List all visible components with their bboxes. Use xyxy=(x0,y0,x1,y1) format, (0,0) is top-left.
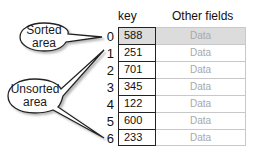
key-cell: 251 xyxy=(118,44,156,61)
unsorted-area-label: Unsorted area xyxy=(7,83,63,109)
data-cell: Data xyxy=(156,112,246,129)
row-index: 3 xyxy=(102,81,114,94)
data-cell: Data xyxy=(156,95,246,112)
row-index: 6 xyxy=(102,132,114,145)
data-cell: Data xyxy=(156,61,246,78)
table-row: 233 Data xyxy=(118,129,246,146)
sorted-label-line2: area xyxy=(20,37,68,50)
table-row: 588 Data xyxy=(118,27,246,44)
key-cell: 233 xyxy=(118,129,156,146)
table-row: 122 Data xyxy=(118,95,246,112)
table-row: 251 Data xyxy=(118,44,246,61)
data-cell: Data xyxy=(156,78,246,95)
table-row: 345 Data xyxy=(118,78,246,95)
row-index: 5 xyxy=(102,115,114,128)
row-index: 2 xyxy=(102,64,114,77)
key-cell: 122 xyxy=(118,95,156,112)
sorted-area-label: Sorted area xyxy=(20,24,68,50)
table-row: 600 Data xyxy=(118,112,246,129)
other-fields-column-header: Other fields xyxy=(172,9,233,23)
key-cell: 588 xyxy=(118,27,156,44)
row-index: 1 xyxy=(102,47,114,60)
row-index: 0 xyxy=(102,30,114,43)
records-table: 588 Data 251 Data 701 Data 345 Data 122 … xyxy=(118,27,246,146)
key-column-header: key xyxy=(118,9,137,23)
table-row: 701 Data xyxy=(118,61,246,78)
key-cell: 600 xyxy=(118,112,156,129)
data-cell: Data xyxy=(156,129,246,146)
data-cell: Data xyxy=(156,44,246,61)
key-cell: 345 xyxy=(118,78,156,95)
unsorted-label-line2: area xyxy=(7,96,63,109)
row-index: 4 xyxy=(102,98,114,111)
data-cell: Data xyxy=(156,27,246,44)
key-cell: 701 xyxy=(118,61,156,78)
